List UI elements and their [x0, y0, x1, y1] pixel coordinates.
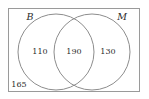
- region-count-intersection: 190: [66, 47, 81, 56]
- region-count-b-only: 110: [32, 47, 47, 56]
- set-label-m: M: [116, 11, 127, 22]
- venn-diagram: B M 110 190 130 165: [0, 0, 149, 99]
- region-count-m-only: 130: [100, 47, 115, 56]
- region-count-outside: 165: [11, 80, 26, 89]
- set-circle-b: [18, 14, 94, 90]
- venn-diagram-canvas: B M 110 190 130 165: [0, 0, 149, 99]
- set-label-b: B: [26, 11, 34, 22]
